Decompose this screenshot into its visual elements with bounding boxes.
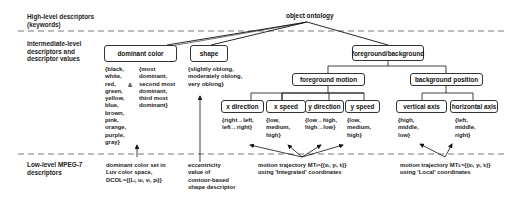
node-y-speed: y speed (345, 100, 380, 113)
values-horizontal-axis: {left, middle, right} (455, 117, 476, 139)
values-x-direction: {right→left, left→right} (222, 117, 254, 132)
node-vertical-axis: vertical axis (396, 100, 447, 113)
node-x-direction: x direction (221, 100, 264, 113)
node-horizontal-axis: horizontal axis (450, 100, 498, 113)
low-shape: eccentricity value of contour-based shap… (188, 162, 235, 191)
node-background-position: background position (410, 73, 483, 86)
values-dominance: {most dominant, second most dominant, th… (139, 66, 175, 110)
level-label-high: High-level descriptors (keywords) (27, 13, 94, 28)
node-y-direction: y direction (305, 100, 344, 113)
level-label-intermediate: Intermediate-level descriptors and descr… (27, 40, 81, 63)
low-dcol: dominant color set in Luv color space, D… (106, 162, 166, 184)
values-shape: {slightly oblong, moderately oblong, ver… (188, 66, 242, 88)
values-y-speed: {low, medium, high} (347, 117, 371, 139)
level-label-low: Low-level MPEG-7 descriptors (27, 161, 82, 176)
values-y-direction: {low→high, high→low} (305, 117, 337, 132)
root-object-ontology: object ontology (286, 12, 334, 19)
node-x-speed: x speed (266, 100, 306, 113)
node-foreground-background: foreground/background (352, 45, 424, 61)
values-vertical-axis: {high, middle, low} (398, 117, 419, 139)
node-shape: shape (190, 45, 228, 62)
values-ampersand: & (128, 82, 132, 89)
values-x-speed: {low, medium, high} (266, 117, 290, 139)
low-mt-local: motion trajectory MTʟ={(xᵢ, yᵢ, tᵢ)} usi… (400, 162, 490, 177)
node-foreground-motion: foreground motion (292, 73, 365, 86)
low-mt-integrated: motion trajectory MTᵢ={(xᵢ, yᵢ, tᵢ)} usi… (258, 162, 347, 177)
node-dominant-color: dominant color (104, 45, 177, 62)
values-colors: {black, white, red, green, yellow, blue,… (105, 66, 126, 146)
